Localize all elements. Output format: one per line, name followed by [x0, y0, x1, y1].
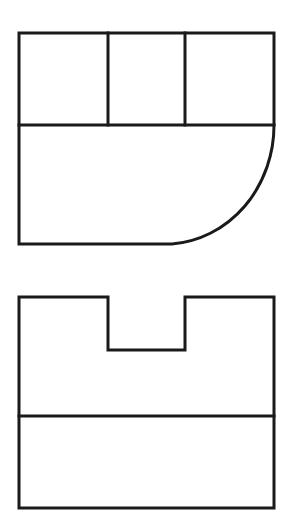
- top-view: [19, 33, 274, 244]
- front-view: [19, 297, 274, 508]
- orthographic-drawing: [0, 0, 296, 525]
- top-view-outline: [19, 33, 274, 244]
- front-view-outline: [19, 297, 274, 508]
